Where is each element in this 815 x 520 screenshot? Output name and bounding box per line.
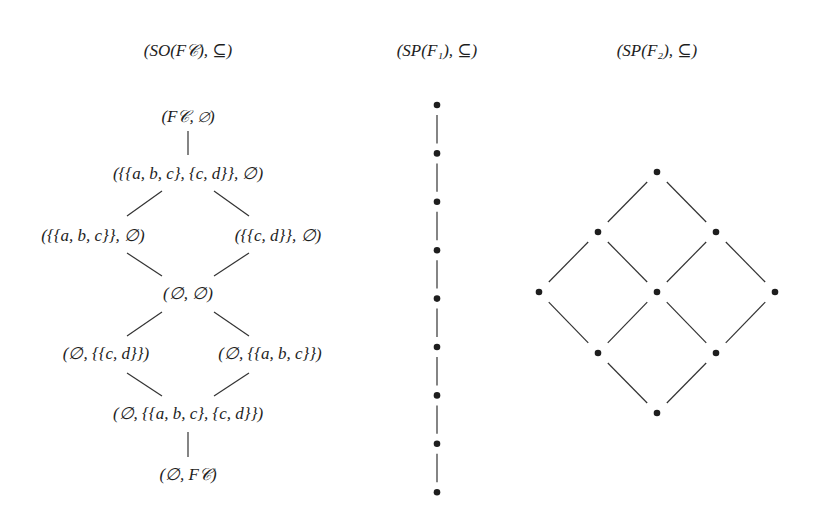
left-edge-abc_cd-abc: [127, 191, 162, 216]
left-edge-e_abc-e_abc_cd: [214, 373, 249, 396]
right-node-l3: [595, 350, 602, 357]
right-edge-r3-b: [667, 363, 706, 403]
right-edge-r1-r2: [726, 242, 765, 282]
left-node-e_abc_cd: (∅, {{a, b, c}, {c, d}}): [113, 403, 263, 424]
chain-node-7: [434, 441, 441, 448]
right-node-m2: [654, 289, 661, 296]
chain-node-5: [434, 344, 441, 351]
chain-node-1: [434, 150, 441, 157]
left-node-cd: ({{c, d}}, ∅): [235, 225, 322, 246]
right-edge-l3-b: [608, 363, 647, 403]
diagram-canvas: [0, 0, 815, 520]
right-edge-t-r1: [667, 182, 706, 222]
left-node-e_abc: (∅, {{a, b, c}}): [218, 343, 322, 364]
right-edge-m2-l3: [608, 302, 648, 343]
left-edge-empty-e_cd: [127, 312, 162, 336]
right-node-t: [654, 169, 661, 176]
right-node-r2: [772, 289, 779, 296]
right-edge-r2-r3: [726, 302, 766, 343]
chain-node-6: [434, 392, 441, 399]
right-edge-t-l1: [608, 182, 647, 222]
right-edge-l2-l3: [549, 302, 589, 343]
left-node-empty: (∅, ∅): [163, 283, 213, 304]
chain-node-3: [434, 247, 441, 254]
right-node-r1: [713, 229, 720, 236]
title-middle: (SP(F₁), ⊆): [397, 40, 478, 61]
right-node-b: [654, 410, 661, 417]
right-node-r3: [713, 350, 720, 357]
left-edge-abc-empty: [127, 253, 162, 276]
left-node-abc: ({{a, b, c}}, ∅): [41, 225, 145, 246]
chain-node-8: [434, 489, 441, 496]
title-left: (SO(F𝒞), ⊆): [144, 40, 233, 61]
right-edge-r1-m2: [667, 242, 706, 282]
left-edge-cd-empty: [214, 253, 249, 276]
left-edge-abc_cd-cd: [214, 191, 249, 216]
right-node-l2: [536, 289, 543, 296]
title-right: (SP(F₂), ⊆): [617, 40, 698, 61]
right-edge-l1-m2: [608, 242, 647, 282]
left-node-bottom: (∅, F𝒞): [159, 464, 216, 485]
chain-node-0: [434, 102, 441, 109]
left-node-e_cd: (∅, {{c, d}}): [63, 343, 150, 364]
left-node-top: (F𝒞, ∅): [161, 107, 214, 127]
right-node-l1: [595, 229, 602, 236]
left-edge-empty-e_abc: [214, 312, 249, 336]
chain-node-2: [434, 199, 441, 206]
chain-node-4: [434, 295, 441, 302]
right-edge-l1-l2: [549, 242, 588, 282]
right-edge-m2-r3: [667, 302, 707, 343]
left-node-abc_cd: ({{a, b, c}, {c, d}}, ∅): [113, 163, 263, 184]
left-edge-e_cd-e_abc_cd: [127, 373, 162, 396]
